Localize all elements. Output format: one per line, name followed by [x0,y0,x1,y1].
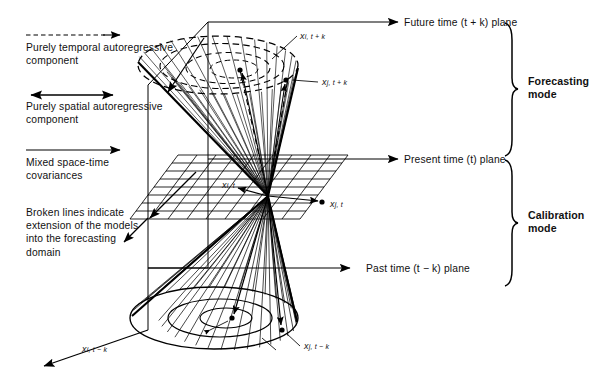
legend-spatial-line1: Purely spatial autoregressive [26,100,163,113]
legend-mixed-line2: covariances [26,169,109,182]
point-label-xi-present: xi, t [222,180,235,190]
point-label-xj-future: xj, t + k [322,77,347,87]
legend-broken-line4: domain [26,246,138,259]
point-label-xj-past: xj, t − k [304,341,329,351]
legend-broken-line3: into the forecasting [26,232,138,245]
legend-item-mixed: Mixed space-time covariances [26,156,109,182]
legend-item-temporal: Purely temporal autoregressive component [26,41,173,67]
mode-label-forecasting: Forecasting mode [528,75,589,102]
present-plane-points [238,188,325,205]
point-xj-past-sub: j, t − k [309,343,329,350]
point-xj-present-sub: j, t [335,201,343,208]
legend-item-spatial: Purely spatial autoregressive component [26,100,163,126]
mode-forecasting-line2: mode [528,88,589,101]
point-label-xj-present: xj, t [330,199,343,209]
point-xi-future-sub: i, t + k [305,33,325,40]
mode-calibration-line2: mode [528,222,584,235]
legend-item-broken-lines: Broken lines indicate extension of the m… [26,206,138,259]
legend-temporal-line1: Purely temporal autoregressive [26,41,173,54]
figure-canvas: Purely temporal autoregressive component… [0,0,602,379]
plane-label-future: Future time (t + k) plane [404,16,517,29]
plane-label-present: Present time (t) plane [404,153,506,166]
legend-spatial-line2: component [26,113,163,126]
point-label-xi-future: xi, t + k [300,31,325,41]
mode-calibration-line1: Calibration [528,209,584,222]
mode-label-calibration: Calibration mode [528,209,584,236]
brace-forecasting [505,23,518,156]
legend-mixed-line1: Mixed space-time [26,156,109,169]
point-xi-past-sub: i, t − k [87,346,107,353]
point-xi-present-sub: i, t [227,182,235,189]
point-xj-future-sub: j, t + k [327,79,347,86]
frame-lines [148,22,208,330]
mode-forecasting-line1: Forecasting [528,75,589,88]
legend-broken-line2: extension of the models [26,219,138,232]
brace-calibration [505,160,518,286]
legend-temporal-line2: component [26,54,173,67]
legend-broken-line1: Broken lines indicate [26,206,138,219]
point-label-xi-past: xi, t − k [82,344,107,354]
plane-label-past: Past time (t − k) plane [366,262,470,275]
